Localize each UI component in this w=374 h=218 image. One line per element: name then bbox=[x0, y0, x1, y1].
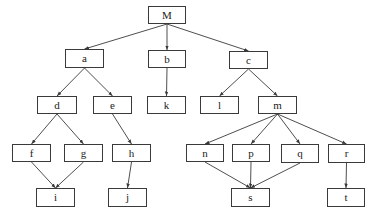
edge-e-h bbox=[113, 114, 132, 144]
node-M: M bbox=[148, 6, 186, 24]
node-label: e bbox=[110, 100, 115, 111]
node-q: q bbox=[281, 144, 319, 163]
edge-M-c bbox=[167, 24, 249, 51]
node-label: t bbox=[344, 192, 347, 203]
node-label: p bbox=[248, 148, 254, 159]
node-h: h bbox=[112, 144, 151, 162]
edge-b-k bbox=[167, 68, 168, 96]
node-g: g bbox=[64, 144, 103, 162]
node-label: b bbox=[164, 54, 170, 65]
node-label: r bbox=[345, 148, 349, 159]
node-label: d bbox=[54, 100, 60, 111]
edge-m-p bbox=[251, 114, 278, 144]
edge-r-t bbox=[346, 163, 347, 188]
node-label: M bbox=[162, 10, 172, 21]
node-p: p bbox=[232, 144, 270, 162]
node-j: j bbox=[108, 188, 147, 207]
node-k: k bbox=[147, 96, 186, 114]
edge-m-r bbox=[278, 114, 347, 144]
node-l: l bbox=[200, 96, 239, 114]
node-label: f bbox=[30, 148, 34, 159]
node-label: q bbox=[297, 148, 303, 159]
edge-a-d bbox=[57, 68, 85, 96]
node-m: m bbox=[258, 96, 297, 114]
node-label: g bbox=[81, 148, 87, 159]
node-b: b bbox=[148, 50, 186, 68]
node-label: l bbox=[218, 100, 221, 111]
edge-m-n bbox=[205, 114, 278, 144]
edge-d-f bbox=[32, 114, 58, 144]
node-label: n bbox=[202, 148, 208, 159]
node-label: i bbox=[54, 192, 57, 203]
node-s: s bbox=[231, 188, 270, 207]
node-t: t bbox=[327, 188, 365, 207]
edge-M-a bbox=[85, 24, 168, 49]
edge-c-m bbox=[249, 69, 278, 96]
edge-h-j bbox=[128, 162, 132, 188]
node-label: a bbox=[82, 53, 87, 64]
edge-f-i bbox=[32, 162, 56, 188]
tree-diagram: Mabcdeklmfghnpqrijst bbox=[0, 0, 374, 218]
node-c: c bbox=[229, 51, 268, 69]
node-e: e bbox=[93, 96, 132, 114]
node-label: s bbox=[248, 192, 252, 203]
node-n: n bbox=[186, 144, 224, 162]
node-label: c bbox=[246, 55, 251, 66]
edge-c-l bbox=[220, 69, 249, 96]
edge-a-e bbox=[85, 68, 113, 96]
edge-q-s bbox=[251, 163, 301, 188]
node-label: h bbox=[129, 148, 135, 159]
node-label: j bbox=[126, 192, 129, 203]
node-label: k bbox=[164, 100, 170, 111]
edge-d-g bbox=[57, 114, 84, 144]
edge-n-s bbox=[205, 162, 251, 188]
node-d: d bbox=[37, 96, 77, 114]
edge-g-i bbox=[56, 162, 84, 188]
node-f: f bbox=[12, 144, 51, 162]
node-a: a bbox=[65, 49, 104, 68]
node-i: i bbox=[36, 188, 75, 207]
edge-p-s bbox=[251, 162, 252, 188]
node-r: r bbox=[328, 144, 365, 163]
node-label: m bbox=[273, 100, 282, 111]
